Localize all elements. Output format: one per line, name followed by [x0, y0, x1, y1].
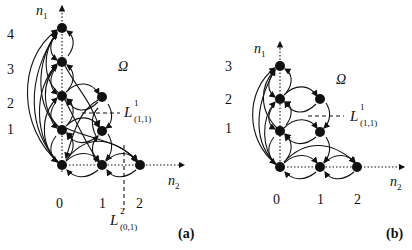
a-y-tick-4: 4 — [7, 28, 14, 42]
diagram-canvas — [0, 0, 412, 250]
b-line-L11-label: L1(1,1) — [350, 108, 358, 125]
panel-a-nodes — [57, 23, 145, 170]
a-y-axis-label: n1 — [36, 4, 48, 23]
panel-b-graph — [253, 42, 404, 179]
a-x-tick-1: 1 — [99, 197, 106, 211]
a-x-tick-2: 2 — [136, 197, 143, 211]
a-x-tick-0: 0 — [56, 197, 63, 211]
a-y-tick-3: 3 — [7, 63, 14, 77]
b-y-axis-label: n1 — [254, 42, 266, 61]
b-region-omega: Ω — [336, 73, 346, 87]
panel-b-label: (b) — [386, 226, 403, 242]
panel-a-label: (a) — [178, 226, 194, 242]
panel-a-graph — [27, 6, 184, 210]
a-x-axis-label: n2 — [168, 174, 180, 193]
b-x-tick-0: 0 — [273, 193, 280, 207]
a-region-omega: Ω — [118, 60, 128, 74]
a-line-L11-label: L1(1,1) — [124, 104, 132, 121]
b-y-tick-1: 1 — [225, 122, 232, 136]
b-x-tick-2: 2 — [354, 193, 361, 207]
a-y-tick-2: 2 — [7, 97, 14, 111]
b-x-tick-1: 1 — [317, 193, 324, 207]
b-x-axis-label: n2 — [390, 175, 402, 194]
a-y-tick-1: 1 — [7, 123, 14, 137]
b-y-tick-3: 3 — [225, 60, 232, 74]
b-y-tick-2: 2 — [225, 93, 232, 107]
a-line-L01-label: L2(0,1) — [110, 212, 118, 229]
